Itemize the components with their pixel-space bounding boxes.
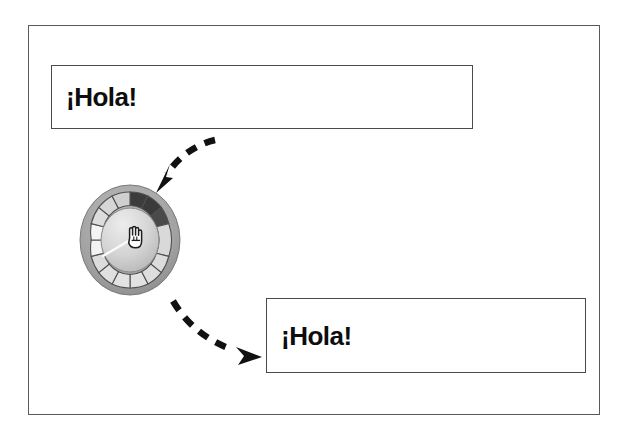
illustration-frame: ¡Hola! ¡Hola! — [28, 25, 600, 415]
result-text-box[interactable]: ¡Hola! — [266, 298, 586, 373]
arrow-to-result — [173, 301, 262, 365]
hand-pointer-icon — [129, 227, 142, 248]
result-text-box-value: ¡Hola! — [267, 323, 352, 349]
rotary-knob[interactable] — [79, 184, 181, 296]
source-text-box[interactable]: ¡Hola! — [51, 65, 473, 129]
source-text-box-value: ¡Hola! — [52, 84, 137, 110]
